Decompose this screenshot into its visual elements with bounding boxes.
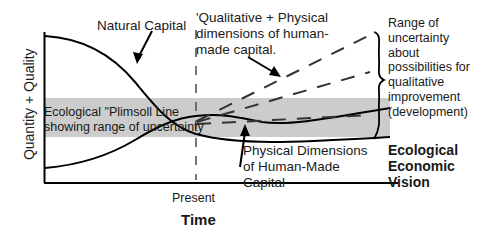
y-axis-label: Quantity + Quality xyxy=(21,29,38,179)
physical-dimensions-label: Physical Dimensions of Human-Made Capita… xyxy=(243,143,368,191)
ecological-economic-vision-label: Ecological Economic Vision xyxy=(388,142,458,190)
qualitative-physical-leader-line xyxy=(248,57,275,73)
x-axis-label: Time xyxy=(181,211,216,229)
present-tick-label: Present xyxy=(172,191,215,206)
plimsoll-line-label: Ecological "Plimsoll Line showing range … xyxy=(44,105,204,135)
natural-capital-arrowhead xyxy=(133,52,143,64)
range-of-uncertainty-label: Range of uncertainty about possibilities… xyxy=(388,16,470,119)
qualitative-physical-label: 'Qualitative + Physical dimensions of hu… xyxy=(196,10,329,58)
ecological-economic-vision-figure: Quantity + Quality Natural Capital 'Qual… xyxy=(0,0,481,240)
natural-capital-label: Natural Capital xyxy=(97,18,186,34)
